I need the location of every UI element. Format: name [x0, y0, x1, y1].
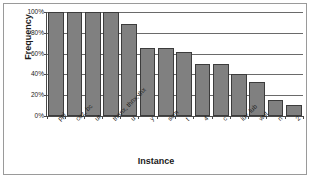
bar: [268, 100, 284, 116]
bar: [195, 64, 211, 116]
x-axis-tick-mark: [303, 116, 304, 119]
bar-series: [47, 12, 303, 116]
y-axis-tick-labels: 0%20%40%60%80%100%: [20, 12, 44, 116]
plot-area: [46, 12, 303, 117]
x-axis-title: Instance: [4, 156, 308, 166]
y-axis-tick-label: 20%: [20, 92, 44, 98]
bar: [67, 12, 83, 116]
y-axis-tick-label: 0%: [20, 113, 44, 119]
bar: [48, 12, 64, 116]
bar: [286, 105, 302, 116]
y-axis-tick-label: 40%: [20, 71, 44, 77]
y-axis-tick-label: 80%: [20, 30, 44, 36]
bar: [158, 48, 174, 116]
bar: [103, 12, 119, 116]
bar: [176, 52, 192, 116]
bar: [213, 64, 229, 116]
bar: [85, 12, 101, 116]
y-axis-tick-label: 100%: [20, 9, 44, 15]
chart-frame: Frequency 0%20%40%60%80%100% pplcuz, bcu…: [3, 3, 307, 175]
y-axis-tick-label: 60%: [20, 51, 44, 57]
bar: [140, 48, 156, 116]
x-axis-tick-label: t: [184, 116, 190, 122]
